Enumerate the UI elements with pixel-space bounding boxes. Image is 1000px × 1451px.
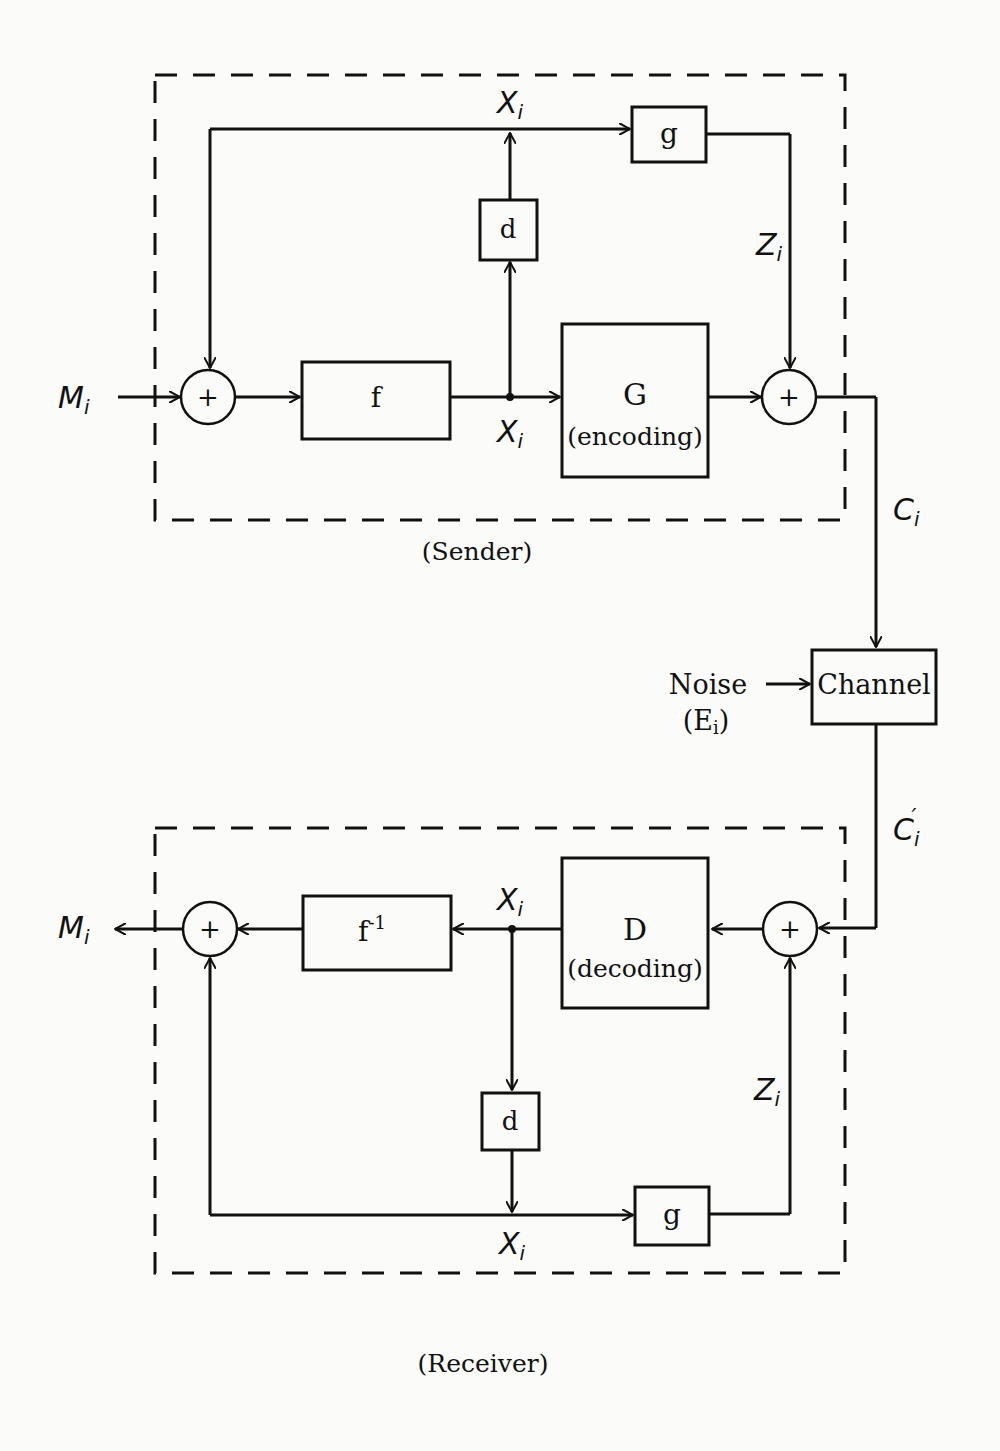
input-message-label: Mi bbox=[58, 380, 90, 419]
x-mid-label-sender: Xi bbox=[495, 414, 524, 453]
receiver-section bbox=[115, 828, 845, 1273]
f-inverse-label: f-1 bbox=[358, 912, 386, 948]
x-bottom-label-receiver: Xi bbox=[497, 1226, 526, 1265]
noise-label: Noise bbox=[669, 669, 747, 700]
adder-plus: + bbox=[778, 382, 800, 412]
g-label-sender: g bbox=[660, 117, 678, 150]
receiver-caption: (Receiver) bbox=[418, 1349, 549, 1378]
x-top-label-receiver: Xi bbox=[495, 882, 524, 921]
encoding-label: (encoding) bbox=[567, 422, 703, 451]
noise-symbol: (Ei) bbox=[683, 705, 730, 738]
block-diagram: Mi + f d g G (encoding) + Xi Xi Zi Ci (S… bbox=[0, 0, 1000, 1451]
d-label-sender: d bbox=[500, 214, 517, 244]
adder-plus: + bbox=[199, 914, 221, 944]
c-label: Ci bbox=[893, 492, 920, 531]
g-label-receiver: g bbox=[663, 1198, 681, 1231]
adder-plus: + bbox=[779, 914, 801, 944]
z-label-receiver: Zi bbox=[753, 1072, 781, 1111]
x-top-label-sender: Xi bbox=[495, 85, 524, 124]
channel-label: Channel bbox=[817, 669, 931, 700]
decoding-label: (decoding) bbox=[567, 954, 702, 983]
c-prime-label: Ci′ bbox=[893, 804, 920, 851]
output-message-label: Mi bbox=[58, 910, 90, 949]
f-label: f bbox=[371, 381, 384, 414]
f-inverse-block bbox=[303, 896, 451, 970]
z-label-sender: Zi bbox=[755, 227, 783, 266]
sender-caption: (Sender) bbox=[422, 537, 532, 566]
d-label-receiver: d bbox=[502, 1106, 519, 1136]
G-label: G bbox=[623, 377, 647, 412]
D-label: D bbox=[623, 912, 647, 947]
sender-boundary bbox=[155, 75, 845, 520]
adder-plus: + bbox=[197, 382, 219, 412]
